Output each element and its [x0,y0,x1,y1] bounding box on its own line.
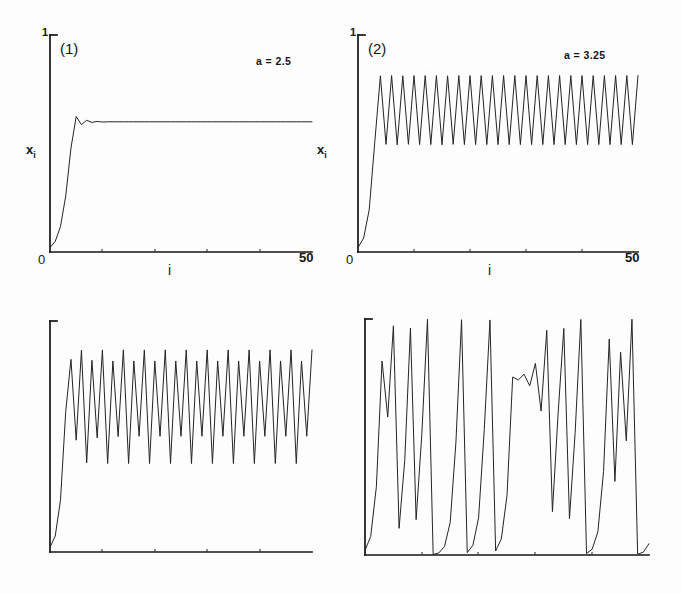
panel-1-y-axis-label: xi [26,142,36,160]
panel-2-y-axis-label: xi [317,142,327,160]
panel-1-y-origin-label: 0 [38,252,45,267]
panel-2-x-end-label: 50 [625,250,639,265]
panel-3-plot [0,296,340,593]
panel-4-axes [365,319,649,555]
panel-2-curve [358,76,638,248]
panel-1: 1 0 (1) a = 2.5 xi i 50 [0,0,340,296]
panel-2-param-label: a = 3.25 [564,49,605,61]
panel-2-y-top-label: 1 [350,26,356,38]
panel-1-curve [50,117,312,248]
panel-2-number: (2) [368,40,386,57]
panel-1-y-top-label: 1 [42,26,48,38]
panel-1-plot [0,0,340,296]
panel-1-axes [50,35,312,252]
panel-4: 1 0 (4) a = 4 xi i 50 [308,296,681,593]
panel-2: 1 0 (2) a = 3.25 xi i 50 [308,0,681,296]
panel-2-x-axis-label: i [488,262,491,278]
panel-3: 1 0 (3) a = 3.5 xi i 50 [0,296,340,593]
panel-4-plot [308,296,681,593]
panel-2-y-origin-label: 0 [346,252,353,267]
panel-1-x-axis-label: i [168,262,171,278]
panel-1-param-label: a = 2.5 [256,55,291,67]
figure-page: 1 0 (1) a = 2.5 xi i 50 1 0 (2) [0,0,681,593]
panel-3-curve [50,350,312,548]
panel-4-curve [365,319,649,554]
panel-1-number: (1) [60,40,78,57]
